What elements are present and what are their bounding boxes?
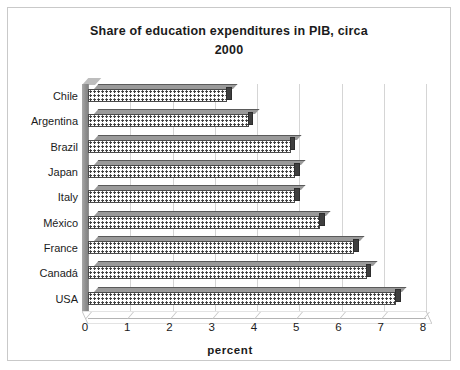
x-axis-tick-label-7: 7 xyxy=(369,321,393,333)
bar-italy[interactable] xyxy=(88,190,295,203)
x-axis-tick-label-3: 3 xyxy=(200,321,224,333)
bar-end-cap xyxy=(366,264,372,277)
y-axis-label-japan: Japan xyxy=(0,160,78,185)
gridline-8 xyxy=(426,84,427,312)
x-axis-tick-label-2: 2 xyxy=(158,321,182,333)
bar-row[interactable] xyxy=(88,287,426,312)
bar-méxico[interactable] xyxy=(88,216,320,229)
bar-row[interactable] xyxy=(88,236,426,261)
bar-row[interactable] xyxy=(88,109,426,134)
bar-row[interactable] xyxy=(88,185,426,210)
x-axis-tick-label-1: 1 xyxy=(115,321,139,333)
bar-canadá[interactable] xyxy=(88,266,367,279)
chart-title-line-1: Share of education expenditures in PIB, … xyxy=(8,22,450,41)
x-axis-tick-label-5: 5 xyxy=(284,321,308,333)
bar-end-cap xyxy=(290,137,296,150)
bar-end-cap xyxy=(395,289,401,302)
x-axis-title: percent xyxy=(0,344,460,356)
y-axis-label-brazil: Brazil xyxy=(0,135,78,160)
y-axis-label-france: France xyxy=(0,236,78,261)
y-axis-label-usa: USA xyxy=(0,287,78,312)
chart-title-line-2: 2000 xyxy=(8,41,450,60)
y-axis-label-chile: Chile xyxy=(0,84,78,109)
x-axis-tick-label-6: 6 xyxy=(327,321,351,333)
bar-row[interactable] xyxy=(88,135,426,160)
x-axis-tick-label-4: 4 xyxy=(242,321,266,333)
plot-area xyxy=(88,84,426,312)
y-axis-label-italy: Italy xyxy=(0,185,78,210)
x-axis-line xyxy=(88,318,426,319)
bar-end-cap xyxy=(226,87,232,100)
bar-japan[interactable] xyxy=(88,165,295,178)
bar-argentina[interactable] xyxy=(88,114,249,127)
bar-end-cap xyxy=(353,239,359,252)
bar-row[interactable] xyxy=(88,160,426,185)
bar-row[interactable] xyxy=(88,211,426,236)
x-axis-tick-label-0: 0 xyxy=(73,321,97,333)
y-axis-label-argentina: Argentina xyxy=(0,109,78,134)
x-axis-tick-label-8: 8 xyxy=(411,321,435,333)
y-axis-label-méxico: México xyxy=(0,211,78,236)
bar-end-cap xyxy=(294,163,300,176)
bar-row[interactable] xyxy=(88,84,426,109)
chart-title: Share of education expenditures in PIB, … xyxy=(8,22,450,60)
bar-chile[interactable] xyxy=(88,89,227,102)
y-axis-category-labels: ChileArgentinaBrazilJapanItalyMéxicoFran… xyxy=(0,84,82,312)
bar-end-cap xyxy=(294,188,300,201)
bar-row[interactable] xyxy=(88,261,426,286)
bar-end-cap xyxy=(319,213,325,226)
y-axis-label-canadá: Canadá xyxy=(0,261,78,286)
bar-usa[interactable] xyxy=(88,292,396,305)
bar-france[interactable] xyxy=(88,241,354,254)
bar-brazil[interactable] xyxy=(88,140,291,153)
bar-end-cap xyxy=(248,112,254,125)
